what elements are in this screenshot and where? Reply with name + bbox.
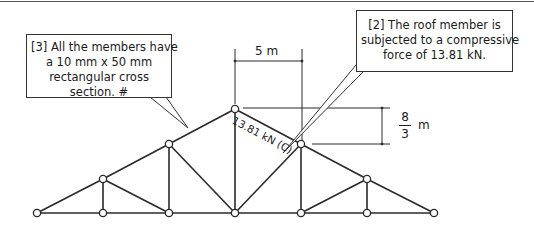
- truss-joint: [363, 209, 370, 216]
- truss-joint: [165, 209, 172, 216]
- truss-joint: [99, 209, 106, 216]
- fraction-numerator: 8: [401, 110, 409, 124]
- truss-joint: [297, 140, 304, 147]
- truss-joint: [231, 209, 238, 216]
- truss-member: [169, 109, 235, 144]
- callout-2-tail: [283, 65, 364, 153]
- fraction-denominator: 3: [401, 127, 409, 141]
- fraction-bar: [399, 125, 411, 126]
- truss-joint: [33, 209, 40, 216]
- callout-3-line: section. #: [31, 85, 167, 100]
- dimension-vertical-unit: m: [418, 118, 430, 132]
- dim-tick: [381, 143, 383, 145]
- truss-joint: [297, 209, 304, 216]
- callout-2-line: force of 13.81 kN.: [361, 48, 508, 63]
- truss-joint: [231, 105, 238, 112]
- callout-tails: [150, 65, 364, 153]
- callout-roof-member: [2] The roof member is subjected to a co…: [356, 10, 513, 72]
- callout-3-line: a 10 mm x 50 mm: [31, 55, 167, 70]
- callout-3-tail: [150, 97, 188, 128]
- truss-member: [103, 179, 169, 213]
- truss-joint: [99, 175, 106, 182]
- truss-member: [37, 179, 103, 213]
- truss-member: [367, 179, 434, 213]
- callout-2-line: [2] The roof member is: [361, 18, 508, 33]
- dim-tick: [234, 60, 236, 62]
- callout-3-line: [3] All the members have: [31, 40, 167, 55]
- callout-3-line: rectangular cross: [31, 70, 167, 85]
- truss-joint: [165, 140, 172, 147]
- truss-joint: [430, 209, 437, 216]
- dimension-vertical-fraction: 8 3: [399, 110, 411, 141]
- dim-tick: [301, 60, 303, 62]
- truss-member: [103, 144, 169, 179]
- callout-2-line: subjected to a compressive: [361, 33, 508, 48]
- truss-member: [301, 179, 367, 213]
- dimension-horizontal-label: 5 m: [255, 44, 278, 58]
- callout-cross-section: [3] All the members have a 10 mm x 50 mm…: [26, 34, 172, 98]
- truss-joint: [363, 175, 370, 182]
- truss-member: [169, 144, 235, 213]
- truss-member: [235, 144, 301, 213]
- truss-member: [301, 144, 367, 179]
- dim-tick: [381, 107, 383, 109]
